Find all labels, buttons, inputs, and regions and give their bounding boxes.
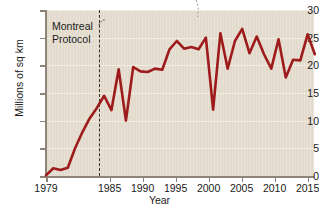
ozone-hole-area-line	[46, 29, 315, 176]
top-callout-dashed-line	[196, 0, 198, 17]
annotation-leader-line	[99, 20, 106, 25]
ozone-hole-line-chart: 30 25 20 15 10 5 0 1979 1985 1990 1995 2…	[0, 0, 319, 206]
data-series-svg	[0, 0, 319, 206]
